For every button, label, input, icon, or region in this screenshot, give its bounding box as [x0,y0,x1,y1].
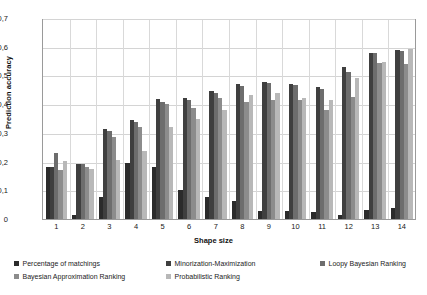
y-axis-tick-label: 0,1 [0,187,8,195]
legend-item: Loopy Bayesian Ranking [320,258,420,269]
legend-swatch-icon [166,261,171,266]
bar-group [96,20,123,219]
y-axis-tick-label: 0,3 [0,130,8,138]
bar [196,119,200,219]
x-axis-tick-label: 7 [202,222,229,231]
bar [249,95,253,219]
x-axis-tick-label: 14 [389,222,416,231]
x-axis-tick-label: 13 [362,222,389,231]
legend-item: Percentage of matchings [14,258,166,269]
x-axis-tick-label: 6 [176,222,203,231]
y-axis-tick-label: 0,5 [0,72,8,80]
bar [169,127,173,219]
x-axis-tick-label: 4 [123,222,150,231]
y-axis-tick-label: 0 [0,216,8,224]
bar-group [309,20,336,219]
legend-label: Minorization-Maximization [175,258,256,269]
chart-legend: Percentage of matchingsMinorization-Maxi… [14,258,422,284]
bar-groups [43,20,415,219]
bar [63,161,67,219]
y-axis-tick-label: 0,2 [0,159,8,167]
bar-group [389,20,416,219]
bar-group [70,20,97,219]
x-axis-tick-label: 11 [309,222,336,231]
legend-label: Loopy Bayesian Ranking [329,258,406,269]
x-axis-tick-label: 5 [149,222,176,231]
legend-item: Bayesian Approximation Ranking [14,271,166,282]
bar [408,49,412,219]
bar-group [123,20,150,219]
legend-label: Probabilistic Ranking [175,271,240,282]
bar-group [229,20,256,219]
legend-item: Minorization-Maximization [166,258,320,269]
bar-group [176,20,203,219]
bar-group [362,20,389,219]
bar [329,100,333,219]
x-axis-tick-label: 12 [335,222,362,231]
x-axis-tick-label: 10 [282,222,309,231]
x-axis-tick-label: 2 [70,222,97,231]
x-axis-tick-label: 1 [43,222,70,231]
bar-group [149,20,176,219]
bar-group [335,20,362,219]
bar [116,160,120,219]
y-axis-tick-label: 0,7 [0,15,8,23]
x-axis-tick-label: 9 [256,222,283,231]
bar [222,110,226,219]
x-axis-ticks: 1234567891011121314 [43,222,415,231]
bar-group [256,20,283,219]
bar [302,98,306,219]
legend-swatch-icon [166,274,171,279]
legend-swatch-icon [14,261,19,266]
bar [142,151,146,219]
bar-chart: Prediction accuracy 0,70,60,50,40,30,20,… [0,0,427,295]
x-axis-tick-label: 8 [229,222,256,231]
x-axis-title: Shape size [0,236,427,245]
y-axis-tick-label: 0,6 [0,44,8,52]
bar [355,78,359,219]
legend-label: Percentage of matchings [23,258,100,269]
legend-item: Probabilistic Ranking [166,271,320,282]
y-axis-tick-label: 0,4 [0,101,8,109]
legend-label: Bayesian Approximation Ranking [23,271,126,282]
bar-group [43,20,70,219]
bar [275,93,279,219]
bar [382,62,386,219]
bar-group [202,20,229,219]
legend-swatch-icon [320,261,325,266]
bar [89,169,93,219]
legend-swatch-icon [14,274,19,279]
bar-group [282,20,309,219]
x-axis-tick-label: 3 [96,222,123,231]
